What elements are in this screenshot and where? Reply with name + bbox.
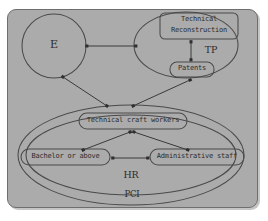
hr-group-label: HR: [116, 170, 146, 180]
technical-craft-workers-label: Technical craft workers: [79, 117, 187, 124]
e-circle-label: E: [44, 39, 64, 50]
bachelor-or-above-label: Bachelor or above: [21, 153, 110, 160]
technical-reconstruction-label-line2: Reconstruction: [160, 27, 238, 34]
diagram-canvas: E Technical Reconstruction Patents TP Te…: [0, 0, 268, 221]
patents-label: Patents: [170, 65, 214, 72]
administrative-staff-label: Administrative staff: [150, 153, 244, 160]
pci-group-label: PCI: [117, 190, 147, 199]
tp-group-label: TP: [198, 45, 224, 55]
technical-reconstruction-label-line1: Technical: [160, 16, 238, 23]
